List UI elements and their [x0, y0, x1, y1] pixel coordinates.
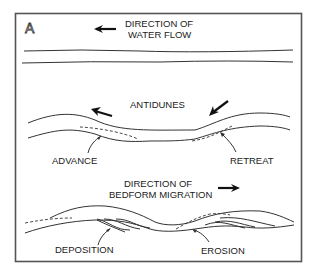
retreat-pointer [222, 134, 236, 152]
antidune-water-surface [28, 113, 290, 130]
retreat-label: RETREAT [230, 155, 274, 166]
erosion-pointer [194, 230, 209, 242]
deposition-label: DEPOSITION [55, 244, 114, 255]
bedform-title-line1: DIRECTION OF [124, 178, 192, 189]
water-flow-title-line1: DIRECTION OF [125, 18, 193, 29]
bedform-dashed-left [25, 218, 72, 223]
advance-label: ADVANCE [52, 155, 97, 166]
panel-label: A [25, 20, 35, 36]
water-surface-lower [22, 61, 293, 63]
water-flow-title-line2: WATER FLOW [128, 29, 191, 40]
bedform-title-line2: BEDFORM MIGRATION [109, 189, 212, 200]
antidune-right-arrow-icon [209, 101, 228, 116]
water-flow-arrow-icon [94, 25, 116, 33]
antidune-left-arrow-icon [91, 107, 112, 116]
antidune-bed [28, 126, 290, 141]
foreset-7 [220, 218, 275, 226]
antidune-diagram: A DIRECTION OF WATER FLOW ANTIDUNES ADVA… [0, 0, 315, 272]
erosion-label: EROSION [201, 245, 245, 256]
water-surface-upper [24, 50, 293, 52]
antidunes-title: ANTIDUNES [130, 99, 185, 110]
bedform-migration-arrow-icon [218, 184, 240, 192]
